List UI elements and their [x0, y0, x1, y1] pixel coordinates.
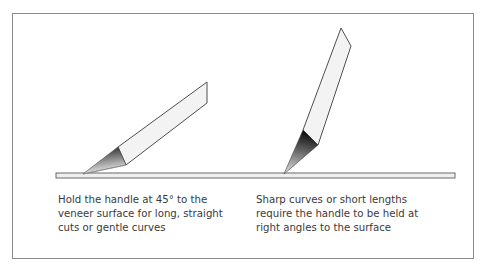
caption-line: require the handle to be held at — [256, 207, 418, 221]
knife-handle — [118, 82, 207, 165]
caption-line: Hold the handle at 45° to the — [58, 193, 223, 207]
caption-right-angle: Sharp curves or short lengths require th… — [256, 193, 418, 235]
knife-blade — [83, 147, 126, 174]
caption-45-degrees: Hold the handle at 45° to the veneer sur… — [58, 193, 223, 235]
knife-45-degrees — [83, 82, 207, 174]
caption-line: right angles to the surface — [256, 221, 418, 235]
caption-line: cuts or gentle curves — [58, 221, 223, 235]
knife-handle — [303, 28, 351, 145]
caption-line: veneer surface for long, straight — [58, 207, 223, 221]
veneer-surface — [56, 173, 455, 178]
knife-right-angle — [284, 28, 351, 174]
caption-line: Sharp curves or short lengths — [256, 193, 418, 207]
